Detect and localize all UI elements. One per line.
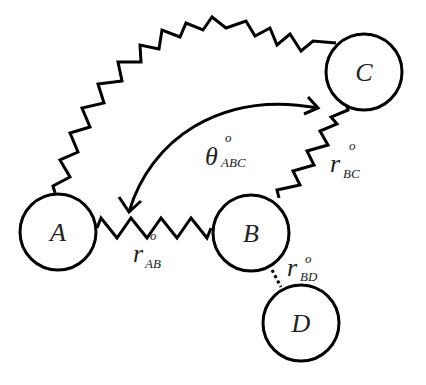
- atom-b-label: B: [243, 219, 259, 248]
- svg-text:BC: BC: [343, 166, 360, 181]
- svg-text:r: r: [133, 239, 144, 268]
- spring-model-diagram: A B C D θ o ABC r o BC r o AB r o BD: [0, 0, 426, 385]
- label-r-bd: r o BD: [287, 251, 318, 284]
- atom-d-label: D: [291, 309, 311, 338]
- svg-text:o: o: [305, 251, 312, 266]
- label-r-bc: r o BC: [330, 138, 360, 181]
- atom-b: B: [213, 195, 289, 271]
- label-theta-abc: θ o ABC: [205, 130, 246, 171]
- atom-a: A: [20, 194, 96, 270]
- atom-c: C: [326, 34, 402, 110]
- atom-a-label: A: [48, 218, 66, 247]
- svg-text:r: r: [330, 149, 341, 178]
- svg-text:ABC: ABC: [220, 155, 246, 170]
- svg-text:AB: AB: [144, 256, 161, 271]
- dotted-bond-bd: [272, 270, 281, 287]
- atom-c-label: C: [355, 58, 373, 87]
- atom-d: D: [263, 285, 339, 361]
- svg-text:r: r: [287, 253, 298, 282]
- svg-text:o: o: [349, 138, 356, 153]
- label-r-ab: r o AB: [133, 228, 161, 271]
- svg-text:o: o: [150, 228, 157, 243]
- svg-text:BD: BD: [300, 269, 318, 284]
- svg-text:θ: θ: [205, 142, 218, 171]
- svg-text:o: o: [225, 130, 232, 145]
